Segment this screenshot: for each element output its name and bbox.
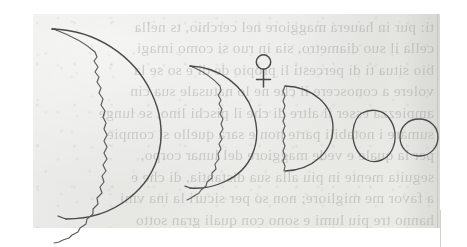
phase-3-half-disc <box>283 86 333 171</box>
figure-page: ti: pur in hauera maggiore nel cerchio, … <box>0 0 467 247</box>
phase-5-full-disc <box>400 119 438 156</box>
venus-symbol <box>256 55 270 87</box>
phase-2-medium-crescent <box>185 66 257 200</box>
venus-phases-figure <box>0 0 467 247</box>
phase-4-gibbous-disc <box>353 110 395 161</box>
phase-1-large-thin-crescent <box>52 29 161 243</box>
